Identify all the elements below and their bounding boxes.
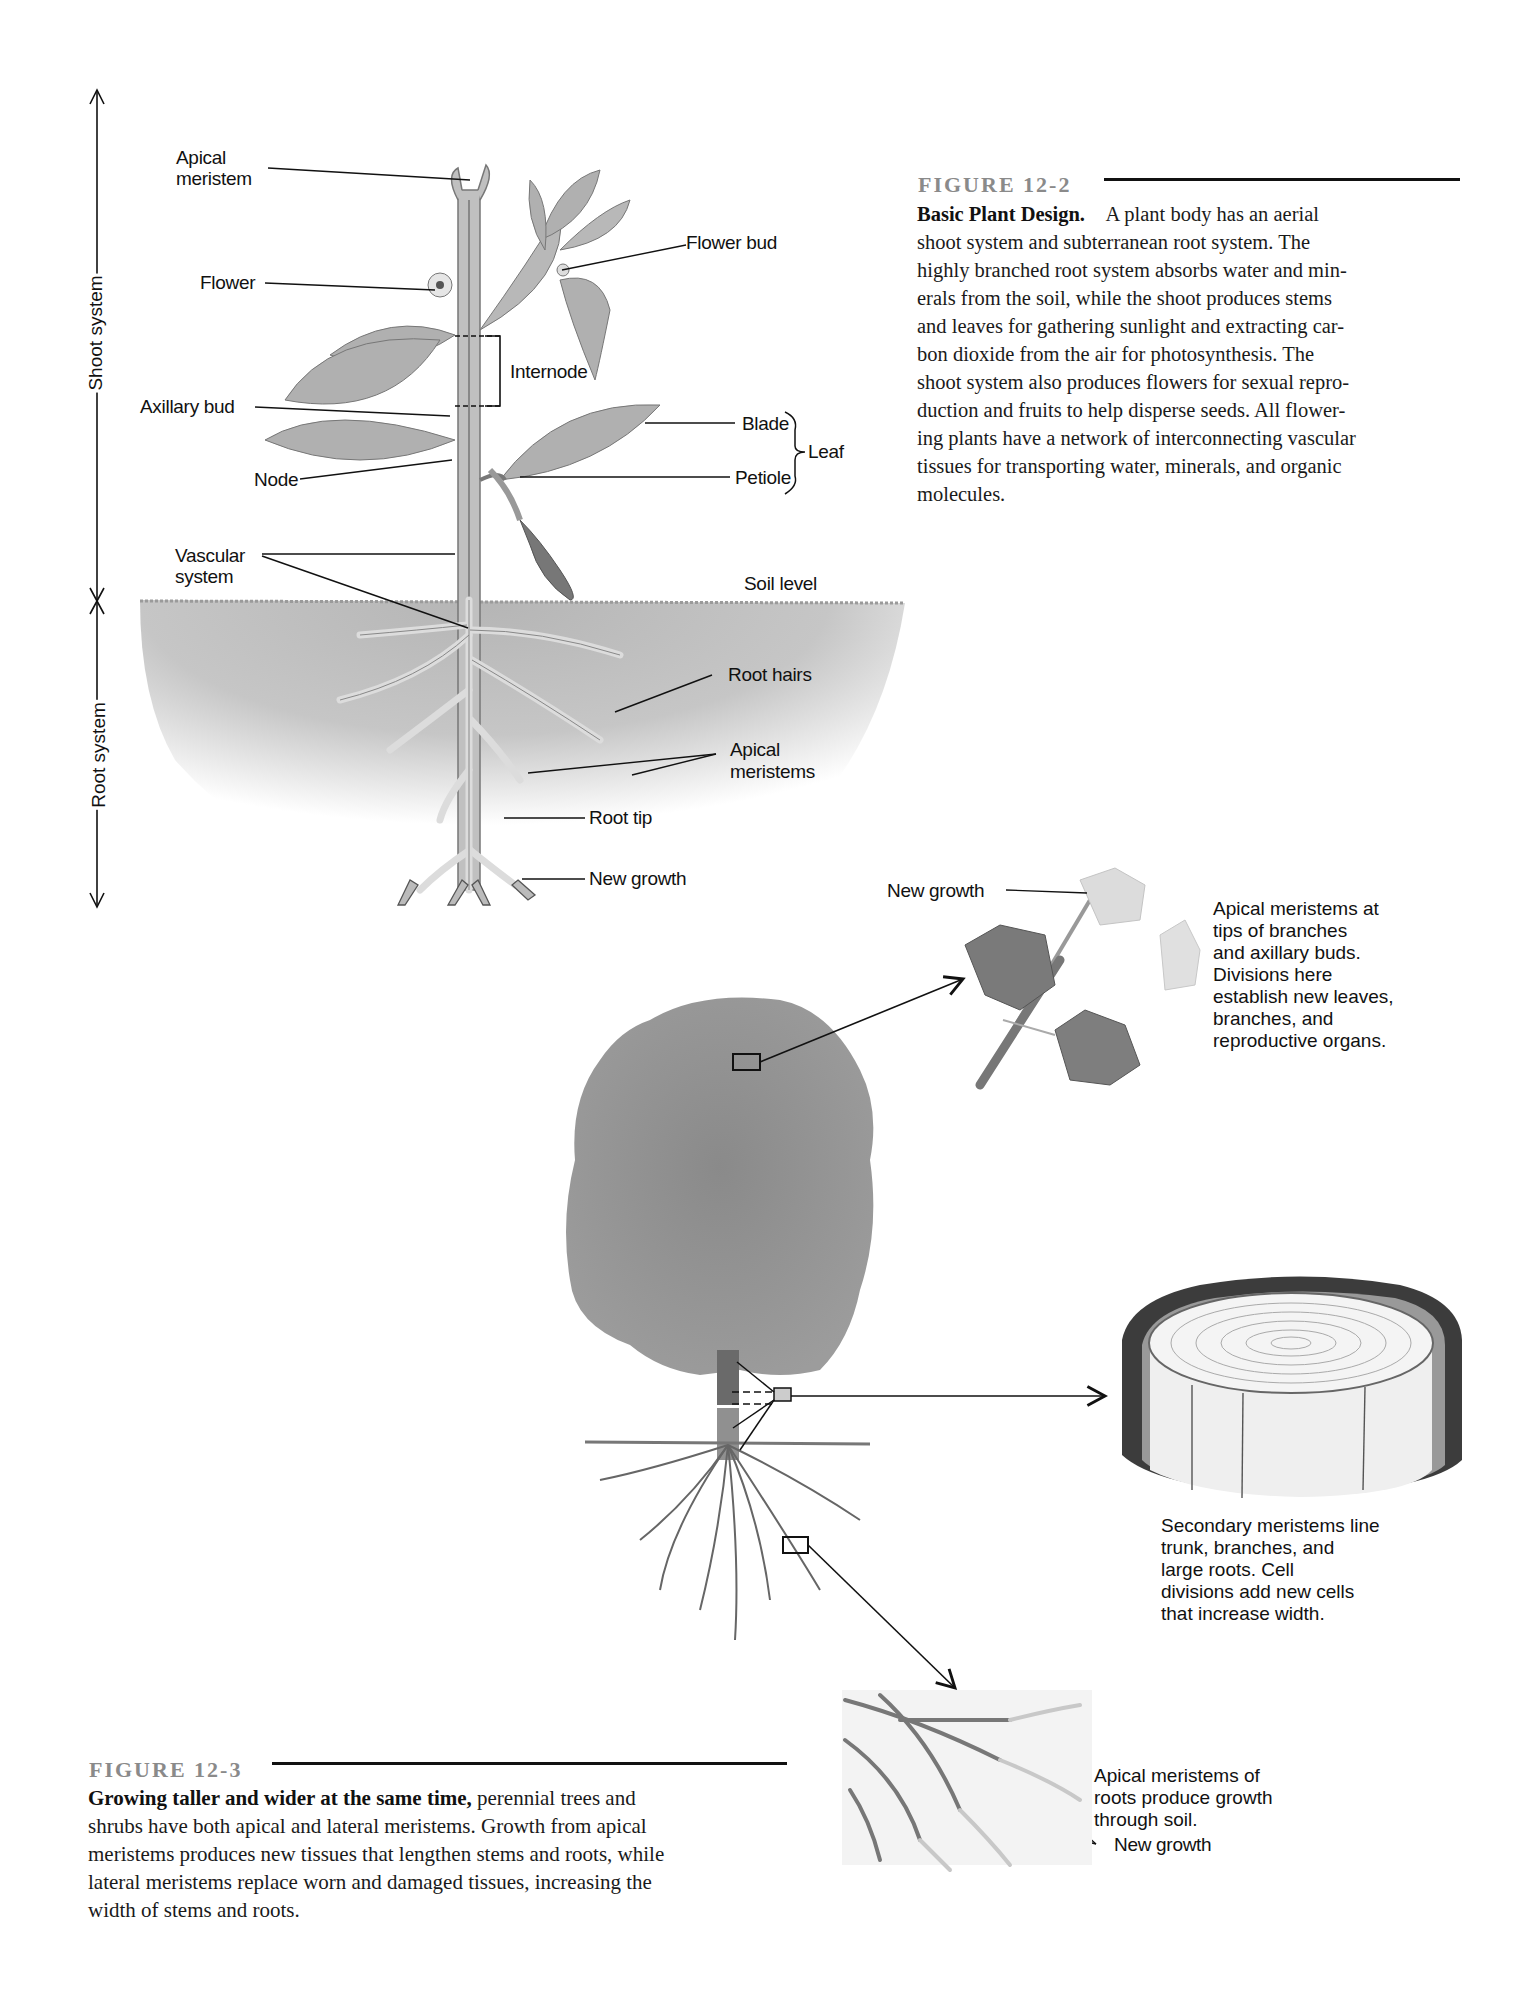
label-vascular-system-line2: system [175,566,233,587]
roots-caption-line: through soil. [1094,1809,1273,1831]
figure-12-3-label: FIGURE 12-3 [89,1757,242,1783]
label-flower-bud: Flower bud [686,232,777,253]
label-leaf: Leaf [808,441,844,462]
branch-caption-line: Divisions here [1213,964,1394,986]
label-axillary-bud: Axillary bud [140,396,235,417]
figure-12-2-label: FIGURE 12-2 [918,172,1071,198]
shoot-system-axis-label: Shoot system [85,273,107,392]
label-apical-meristem-line1: Apical [176,147,226,168]
figure-12-2-line: duction and fruits to help disperse seed… [917,396,1457,424]
branch-caption-line: Apical meristems at [1213,898,1394,920]
figure-12-2-line-0: A plant body has an aerial [1106,203,1319,225]
roots-caption-line: roots produce growth [1094,1787,1273,1809]
figure-12-2-line: bon dioxide from the air for photosynthe… [917,340,1457,368]
figure-12-3-line: width of stems and roots. [88,1896,808,1924]
trunk-caption-line: large roots. Cell [1161,1559,1380,1581]
trunk-caption-line: divisions add new cells [1161,1581,1380,1603]
branch-detail [965,868,1200,1085]
figure-12-2-line: shoot system and subterranean root syste… [917,228,1457,256]
trunk-caption-line: Secondary meristems line [1161,1515,1380,1537]
figure-12-2-body: Basic Plant Design. A plant body has an … [917,200,1457,508]
label-blade: Blade [742,413,789,434]
figure-12-2-line: erals from the soil, while the shoot pro… [917,284,1457,312]
branch-caption-line: establish new leaves, [1213,986,1394,1008]
trunk-cross-section [1122,1277,1462,1499]
label-apical-meristem-line2: meristem [176,168,252,189]
figure-12-3-body: Growing taller and wider at the same tim… [88,1784,808,1924]
figure-12-2-title: Basic Plant Design. [917,203,1085,225]
trunk-caption-line: that increase width. [1161,1603,1380,1625]
roots-caption: Apical meristems of roots produce growth… [1094,1765,1273,1831]
figure-12-2-line: tissues for transporting water, minerals… [917,452,1457,480]
figure-12-3-line: shrubs have both apical and lateral meri… [88,1812,808,1840]
figure-12-3-line: meristems produces new tissues that leng… [88,1840,808,1868]
label-branch-new-growth: New growth [887,880,984,901]
figure-12-3-title: Growing taller and wider at the same tim… [88,1786,472,1810]
figure-12-2-line: shoot system also produces flowers for s… [917,368,1457,396]
figure-12-2-line: ing plants have a network of interconnec… [917,424,1457,452]
trunk-caption: Secondary meristems line trunk, branches… [1161,1515,1380,1625]
figure-12-2-rule [1104,178,1460,181]
label-root-tip: Root tip [589,807,652,828]
label-root-hairs: Root hairs [728,664,812,685]
branch-caption: Apical meristems at tips of branches and… [1213,898,1394,1052]
figure-12-3-line: lateral meristems replace worn and damag… [88,1868,808,1896]
roots-caption-line: Apical meristems of [1094,1765,1273,1787]
branch-caption-line: tips of branches [1213,920,1394,942]
label-internode: Internode [510,361,588,382]
label-apical-meristems-line2: meristems [730,761,815,782]
root-system-axis-label: Root system [88,700,110,810]
label-vascular-system-line1: Vascular [175,545,245,566]
figure-12-2-line: highly branched root system absorbs wate… [917,256,1457,284]
figure-12-3-rule [272,1762,787,1765]
trunk-caption-line: trunk, branches, and [1161,1537,1380,1559]
branch-caption-line: reproductive organs. [1213,1030,1394,1052]
tree-illustration [566,998,873,1641]
figure-12-2-line: and leaves for gathering sunlight and ex… [917,312,1457,340]
root-detail [842,1690,1092,1870]
label-flower: Flower [200,272,255,293]
label-petiole: Petiole [735,467,791,488]
soil-region [140,600,905,900]
figure-12-2-line: molecules. [917,480,1457,508]
label-node: Node [254,469,298,490]
label-roots-new-growth: New growth [1114,1834,1211,1855]
branch-caption-line: and axillary buds. [1213,942,1394,964]
branch-caption-line: branches, and [1213,1008,1394,1030]
label-new-growth: New growth [589,868,686,889]
label-soil-level: Soil level [744,573,817,594]
label-apical-meristems-line1: Apical [730,739,780,760]
figure-12-3-line-0: perennial trees and [477,1786,636,1810]
